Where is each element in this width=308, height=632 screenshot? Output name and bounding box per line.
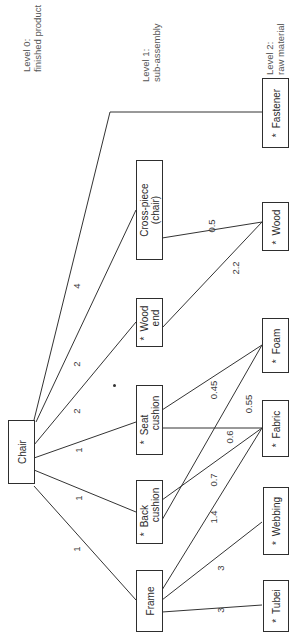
node-back-cushion-label-2: cushion [150, 488, 161, 536]
edge-chair-wood-end [34, 322, 136, 445]
node-webbing-label: Webbing [271, 497, 282, 536]
node-fastener-label: Fastener [270, 89, 281, 128]
node-wood-end-label-2: end [150, 305, 161, 340]
qty-frame-fabric: 1.4 [208, 510, 219, 523]
level-0-label: Level 0: finished product [22, 5, 43, 72]
level-0-title: Level 0: [22, 5, 33, 72]
bom-star-marker: * [270, 359, 281, 363]
qty-chair-cross-piece: 2 [71, 361, 82, 366]
node-tubei: *Tubei [263, 580, 289, 632]
qty-frame-tubei: 3 [215, 607, 226, 612]
level-2-label: Level 2: raw material [265, 23, 286, 75]
edge-chair-frame [34, 486, 136, 600]
node-seat-cushion-label-1: Seat [139, 415, 150, 436]
stray-mark [113, 384, 116, 387]
level-1-title: Level 1: [141, 23, 152, 82]
edge-chair-fastener [34, 112, 262, 420]
bom-star-marker: * [139, 336, 150, 340]
bom-star-marker: * [270, 240, 281, 244]
bom-star-marker: * [139, 532, 150, 536]
qty-frame-webbing: 3 [215, 565, 226, 570]
node-cross-piece-label-2: (chair) [150, 183, 161, 236]
node-cross-piece: Cross-piece (chair) [136, 160, 163, 260]
qty-chair-wood-end: 2 [71, 408, 82, 413]
bom-star-marker: * [271, 619, 282, 623]
qty-wood-end-wood: 2.2 [230, 261, 241, 274]
edge-frame-fabric [162, 428, 262, 590]
node-back-cushion: *Back cushion [136, 480, 163, 544]
node-foam-label: Foam [270, 328, 281, 354]
level-2-desc: raw material [276, 23, 287, 75]
node-chair: Chair [8, 420, 35, 484]
edge-chair-cross-piece [36, 210, 136, 422]
edge-chair-back-cushion [34, 470, 136, 512]
node-back-cushion-label-1: Back [139, 505, 150, 527]
qty-back-cushion-fabric: 0.7 [208, 473, 219, 486]
node-seat-cushion-label-2: cushion [150, 396, 161, 444]
qty-seat-cushion-foam: 0.45 [208, 381, 219, 400]
edge-wood-end-wood [162, 222, 262, 328]
qty-chair-frame: 1 [71, 546, 82, 551]
node-wood-end-label-1: Wood [139, 305, 150, 331]
node-fabric-label: Fabric [270, 410, 281, 438]
level-2-title: Level 2: [265, 23, 276, 75]
edge-frame-tubei [162, 605, 262, 612]
node-webbing: *Webbing [263, 487, 289, 555]
qty-chair-fastener: 4 [71, 283, 82, 288]
qty-cross-piece-wood: 0.5 [206, 219, 217, 232]
edge-back-cushion-fabric [162, 428, 262, 500]
node-wood-end: *Wood end [136, 298, 163, 347]
node-foam: *Foam [262, 318, 289, 373]
bom-star-marker: * [271, 541, 282, 545]
edge-chair-seat-cushion [34, 422, 136, 458]
bom-star-marker: * [139, 440, 150, 444]
qty-chair-seat-cushion: 1 [73, 447, 84, 452]
node-wood-label: Wood [270, 209, 281, 235]
qty-back-cushion-foam: 0.55 [243, 395, 254, 414]
bom-star-marker: * [270, 443, 281, 447]
edge-frame-webbing [162, 522, 262, 600]
edge-back-cushion-foam [162, 345, 262, 520]
node-fastener: *Fastener [262, 78, 289, 148]
node-wood: *Wood [262, 202, 289, 251]
level-1-desc: sub-assembly [152, 23, 163, 82]
qty-seat-cushion-fabric: 0.6 [224, 430, 235, 443]
bom-star-marker: * [270, 133, 281, 137]
node-cross-piece-label-1: Cross-piece [139, 183, 150, 236]
node-seat-cushion: *Seat cushion [136, 385, 163, 455]
node-tubei-label: Tubei [271, 589, 282, 614]
node-frame-label: Frame [144, 587, 155, 616]
node-chair-label: Chair [16, 440, 27, 464]
level-0-desc: finished product [33, 5, 44, 72]
level-1-label: Level 1: sub-assembly [141, 23, 162, 82]
qty-chair-back-cushion: 1 [73, 495, 84, 500]
node-fabric: *Fabric [262, 400, 289, 457]
node-frame: Frame [136, 570, 163, 632]
